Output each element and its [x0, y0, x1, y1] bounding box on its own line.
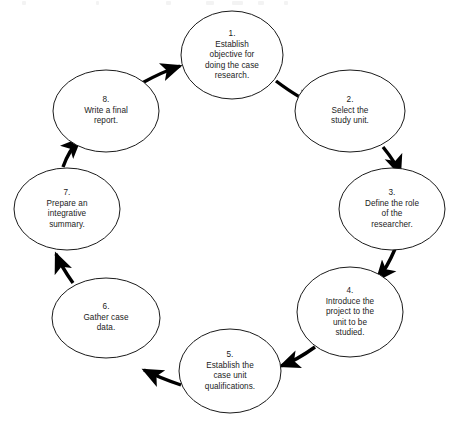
process-node-6[interactable] — [52, 278, 160, 358]
flow-arrow-6-to-7 — [56, 254, 73, 283]
process-node-5[interactable] — [179, 329, 281, 413]
flow-arrow-4-to-5 — [281, 347, 315, 366]
process-node-4[interactable] — [297, 267, 403, 357]
node-shape-layer — [14, 11, 445, 413]
flow-arrow-5-to-6 — [144, 370, 181, 385]
process-node-3[interactable] — [339, 168, 445, 250]
diagram-canvas — [0, 0, 457, 424]
process-node-7[interactable] — [14, 168, 120, 250]
process-node-2[interactable] — [295, 70, 405, 152]
process-node-8[interactable] — [53, 70, 159, 152]
process-node-1[interactable] — [181, 11, 283, 99]
case-study-process-diagram: 1. Establish objective for doing the cas… — [0, 0, 457, 424]
flow-arrow-8-to-1 — [142, 66, 180, 83]
